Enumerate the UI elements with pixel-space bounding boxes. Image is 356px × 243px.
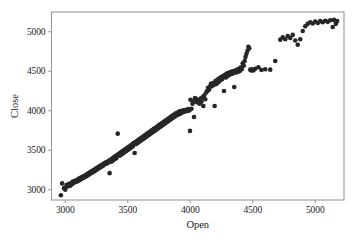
- data-point: [188, 129, 193, 134]
- data-point: [115, 131, 120, 136]
- y-axis-title: Close: [9, 94, 20, 118]
- data-point: [192, 115, 197, 120]
- data-point-markers: [59, 18, 340, 198]
- data-point: [293, 38, 298, 43]
- data-point: [59, 193, 64, 198]
- x-tick-label: 3000: [56, 205, 75, 215]
- x-tick-label: 4500: [243, 205, 262, 215]
- plot-canvas: [0, 0, 356, 243]
- x-tick-label: 4000: [181, 205, 200, 215]
- data-point: [203, 97, 208, 102]
- data-point: [273, 59, 278, 64]
- data-point: [298, 37, 303, 42]
- data-point: [189, 106, 194, 111]
- data-point: [222, 89, 227, 94]
- data-point: [247, 46, 252, 51]
- data-point: [212, 104, 217, 109]
- x-tick-label: 3500: [118, 205, 137, 215]
- data-point: [241, 63, 246, 68]
- data-point: [295, 42, 300, 47]
- x-tick-label: 5000: [306, 205, 325, 215]
- data-point: [232, 85, 237, 90]
- data-point: [107, 171, 112, 176]
- data-point: [132, 151, 137, 156]
- scatter-plot-figure: 30003500400045005000 3000350040004500500…: [0, 0, 356, 243]
- data-point: [300, 29, 305, 34]
- data-point: [60, 181, 65, 186]
- data-point: [263, 67, 268, 72]
- x-axis-title: Open: [186, 219, 209, 230]
- data-point: [242, 59, 247, 64]
- data-point: [201, 104, 206, 109]
- data-point: [290, 33, 295, 38]
- data-point: [268, 67, 273, 72]
- data-point: [335, 19, 340, 24]
